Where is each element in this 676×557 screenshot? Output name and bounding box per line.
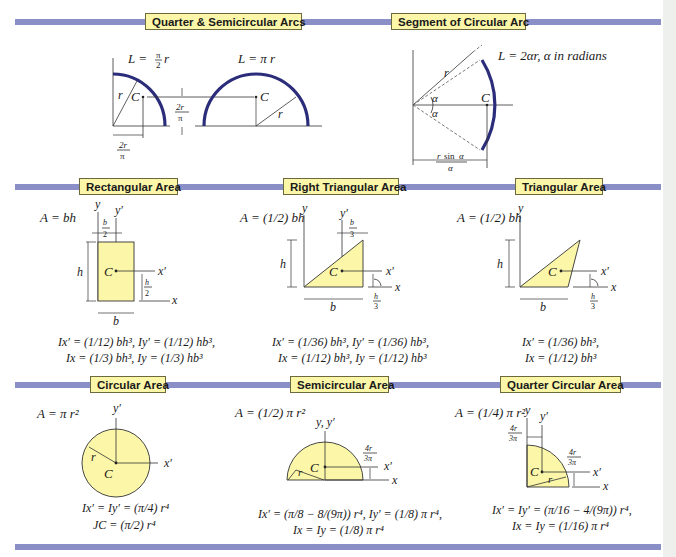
segment-arc-figure: L = 2αr, α in radians r α α C rsinα α — [413, 45, 607, 173]
quarter-arc-figure: L = π 2 r r C 2r π 2r π — [113, 50, 254, 161]
right-triangular-area-figure: A = (1/2) bh y y′ b 3 h C x′ x h 3 b Ix′… — [239, 201, 429, 365]
svg-text:h: h — [77, 265, 83, 279]
svg-text:y: y — [94, 197, 101, 211]
svg-text:x: x — [394, 280, 401, 294]
svg-text:L = 2αr, α in radians: L = 2αr, α in radians — [497, 48, 607, 63]
svg-text:C: C — [104, 264, 113, 279]
svg-text:3: 3 — [374, 302, 378, 311]
svg-text:3: 3 — [591, 302, 595, 311]
svg-text:x: x — [391, 473, 398, 487]
svg-text:A = (1/2) bh: A = (1/2) bh — [456, 210, 522, 225]
svg-text:α: α — [432, 92, 438, 104]
svg-text:r: r — [91, 450, 96, 464]
svg-text:3π: 3π — [567, 458, 577, 467]
svg-text:4r: 4r — [510, 424, 518, 433]
svg-text:x: x — [602, 479, 609, 493]
svg-text:x′: x′ — [163, 456, 172, 470]
svg-text:r: r — [298, 466, 303, 478]
svg-text:Ix′ = (1/36) bh³, Iy′ = (1/36): Ix′ = (1/36) bh³, Iy′ = (1/36) hb³, — [271, 335, 429, 349]
svg-text:y′: y′ — [539, 409, 548, 423]
svg-text:Ix = Iy = (1/8) π r⁴: Ix = Iy = (1/8) π r⁴ — [292, 523, 384, 537]
svg-text:b: b — [350, 218, 354, 227]
quarter-circular-area-figure: A = (1/4) π r² y y′ 4r 3π C x′ r x 4r 3π… — [454, 403, 632, 533]
svg-text:Ix′ = Iy′ = (π/4) r⁴: Ix′ = Iy′ = (π/4) r⁴ — [81, 501, 169, 515]
svg-text:h: h — [374, 292, 378, 301]
svg-text:h: h — [280, 257, 286, 271]
svg-text:A = π r²: A = π r² — [36, 406, 80, 421]
svg-text:C: C — [260, 89, 269, 104]
svg-text:x′: x′ — [157, 264, 166, 278]
svg-text:h: h — [591, 292, 595, 301]
svg-text:C: C — [530, 464, 539, 479]
svg-text:C: C — [104, 466, 113, 481]
svg-text:L = π r: L = π r — [237, 51, 276, 66]
svg-text:Ix = (1/12) bh³, Iy = (1/12) h: Ix = (1/12) bh³, Iy = (1/12) hb³ — [277, 351, 427, 365]
svg-text:2: 2 — [156, 60, 161, 70]
svg-text:π: π — [156, 50, 161, 60]
svg-text:b: b — [330, 300, 336, 314]
svg-text:h: h — [145, 278, 149, 287]
svg-text:r: r — [164, 51, 170, 66]
svg-text:r: r — [444, 66, 449, 80]
svg-text:2r: 2r — [119, 140, 128, 150]
svg-text:y, y′: y, y′ — [315, 415, 335, 429]
svg-text:r: r — [548, 473, 553, 485]
svg-text:x′: x′ — [383, 459, 392, 473]
svg-text:C: C — [131, 89, 140, 104]
svg-text:3π: 3π — [363, 454, 373, 463]
triangular-area-figure: A = (1/2) bh y h C x′ x h 3 b Ix′ = (1/3… — [456, 201, 617, 365]
svg-text:2: 2 — [103, 230, 107, 239]
svg-text:Ix = Iy = (1/16) π r⁴: Ix = Iy = (1/16) π r⁴ — [511, 519, 609, 533]
svg-text:α: α — [459, 151, 464, 161]
svg-text:y′: y′ — [112, 401, 121, 415]
svg-text:y: y — [301, 201, 308, 215]
svg-text:x′: x′ — [385, 264, 394, 278]
svg-text:4r: 4r — [365, 444, 373, 453]
svg-text:A = (1/2) π r²: A = (1/2) π r² — [234, 405, 306, 420]
figures-canvas: L = π 2 r r C 2r π 2r π L = π r C r — [0, 0, 676, 557]
svg-text:r: r — [118, 88, 123, 102]
svg-text:4r: 4r — [569, 448, 577, 457]
svg-text:h: h — [497, 257, 503, 271]
semicircular-arc-figure: L = π r C r — [195, 51, 322, 126]
svg-text:L =: L = — [127, 51, 147, 66]
rectangular-area-figure: A = bh y y′ b 2 h C x′ h 2 x b Ix′ = (1/… — [39, 197, 215, 365]
circular-area-figure: A = π r² y′ x′ r C Ix′ = Iy′ = (π/4) r⁴ … — [36, 401, 172, 532]
svg-text:3: 3 — [350, 230, 354, 239]
svg-text:C: C — [548, 264, 557, 279]
svg-text:α: α — [432, 107, 438, 119]
svg-text:b: b — [113, 314, 119, 328]
svg-text:2: 2 — [145, 289, 149, 298]
svg-text:π: π — [178, 113, 183, 123]
svg-text:b: b — [103, 218, 107, 227]
svg-text:x: x — [171, 293, 178, 307]
svg-text:Ix′ = (1/36) bh³,: Ix′ = (1/36) bh³, — [521, 335, 599, 349]
svg-text:Ix′ = (π/8 − 8/(9π)) r⁴, Iy′ =: Ix′ = (π/8 − 8/(9π)) r⁴, Iy′ = (1/8) π r… — [257, 507, 442, 521]
svg-text:y′: y′ — [114, 203, 123, 217]
svg-text:r: r — [278, 107, 283, 121]
svg-text:A = bh: A = bh — [39, 210, 76, 225]
svg-text:Ix′ = Iy′ = (π/16 − 4/(9π)) r⁴: Ix′ = Iy′ = (π/16 − 4/(9π)) r⁴, — [491, 503, 632, 517]
svg-text:3π: 3π — [508, 434, 518, 443]
semicircular-area-figure: A = (1/2) π r² y, y′ C x′ x r 4r 3π Ix′ … — [234, 405, 442, 537]
svg-text:α: α — [448, 163, 453, 173]
svg-text:x′: x′ — [600, 264, 609, 278]
svg-text:C: C — [329, 264, 338, 279]
svg-text:JC = (π/2) r⁴: JC = (π/2) r⁴ — [93, 518, 156, 532]
svg-text:C: C — [481, 90, 490, 105]
svg-text:y: y — [524, 403, 531, 417]
svg-text:y: y — [517, 201, 524, 215]
svg-text:C: C — [310, 460, 319, 475]
svg-text:Ix = (1/3) bh³, Iy = (1/3) hb³: Ix = (1/3) bh³, Iy = (1/3) hb³ — [65, 351, 203, 365]
svg-text:Ix′ = (1/12) bh³, Iy′ = (1/12): Ix′ = (1/12) bh³, Iy′ = (1/12) hb³, — [57, 335, 215, 349]
svg-text:sin: sin — [444, 151, 455, 161]
svg-text:y′: y′ — [339, 206, 348, 220]
svg-text:2r: 2r — [176, 102, 185, 112]
svg-text:b: b — [540, 300, 546, 314]
svg-text:Ix = (1/12) bh³: Ix = (1/12) bh³ — [524, 351, 597, 365]
svg-text:x′: x′ — [592, 465, 601, 479]
svg-text:π: π — [120, 151, 125, 161]
svg-text:A = (1/4) π r²: A = (1/4) π r² — [454, 405, 526, 420]
svg-text:A = (1/2) bh: A = (1/2) bh — [239, 210, 305, 225]
svg-text:r: r — [437, 151, 441, 161]
